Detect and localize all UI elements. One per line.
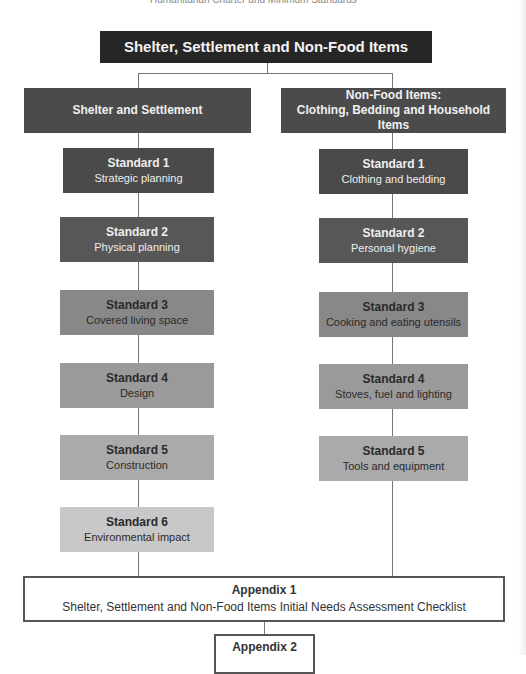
standard-label: Standard 5 bbox=[362, 443, 424, 459]
standard-name: Covered living space bbox=[86, 313, 188, 328]
connector-right-spine bbox=[392, 133, 393, 576]
appendix-1: Appendix 1 Shelter, Settlement and Non-F… bbox=[23, 576, 505, 622]
standard-label: Standard 1 bbox=[107, 155, 169, 171]
connector-appendix bbox=[264, 622, 265, 634]
standard-name: Environmental impact bbox=[84, 530, 190, 545]
standard-label: Standard 2 bbox=[362, 225, 424, 241]
standard-name: Physical planning bbox=[94, 240, 180, 255]
standard-label: Standard 5 bbox=[106, 442, 168, 458]
standard-name: Clothing and bedding bbox=[342, 172, 446, 187]
right-standard-2: Standard 2 Personal hygiene bbox=[319, 218, 468, 263]
category-title: Shelter and Settlement bbox=[72, 103, 202, 118]
appendix-label: Appendix 1 bbox=[232, 582, 297, 598]
right-standard-1: Standard 1 Clothing and bedding bbox=[319, 149, 468, 194]
standard-label: Standard 3 bbox=[362, 299, 424, 315]
right-standard-5: Standard 5 Tools and equipment bbox=[319, 436, 468, 481]
standard-name: Tools and equipment bbox=[343, 459, 445, 474]
connector-right-down bbox=[392, 73, 393, 88]
connector-left-down bbox=[138, 73, 139, 88]
connector-title-down bbox=[267, 63, 268, 73]
connector-horizontal-top bbox=[138, 73, 393, 74]
standard-label: Standard 4 bbox=[106, 370, 168, 386]
category-title-line2: Clothing, Bedding and Household Items bbox=[281, 103, 506, 133]
standard-label: Standard 2 bbox=[106, 224, 168, 240]
appendix-name: Shelter, Settlement and Non-Food Items I… bbox=[62, 598, 466, 616]
page-header: Humanitarian Charter and Minimum Standar… bbox=[150, 0, 357, 5]
standard-name: Strategic planning bbox=[94, 171, 182, 186]
right-standard-4: Standard 4 Stoves, fuel and lighting bbox=[319, 364, 468, 409]
standard-label: Standard 3 bbox=[106, 297, 168, 313]
standard-label: Standard 6 bbox=[106, 514, 168, 530]
category-non-food-items: Non-Food Items: Clothing, Bedding and Ho… bbox=[281, 88, 506, 133]
diagram-title: Shelter, Settlement and Non-Food Items bbox=[100, 31, 432, 63]
right-standard-3: Standard 3 Cooking and eating utensils bbox=[319, 292, 468, 337]
standard-name: Stoves, fuel and lighting bbox=[335, 387, 452, 402]
standard-label: Standard 1 bbox=[362, 156, 424, 172]
left-standard-2: Standard 2 Physical planning bbox=[60, 217, 214, 262]
left-standard-5: Standard 5 Construction bbox=[60, 435, 214, 480]
standard-name: Design bbox=[120, 386, 154, 401]
category-title-line1: Non-Food Items: bbox=[346, 88, 441, 103]
left-standard-6: Standard 6 Environmental impact bbox=[60, 507, 214, 552]
left-standard-3: Standard 3 Covered living space bbox=[60, 290, 214, 335]
page-edge bbox=[518, 0, 526, 655]
standard-name: Cooking and eating utensils bbox=[326, 315, 461, 330]
left-standard-1: Standard 1 Strategic planning bbox=[63, 148, 214, 193]
appendix-label: Appendix 2 bbox=[232, 639, 297, 655]
appendix-2: Appendix 2 bbox=[214, 634, 315, 674]
left-standard-4: Standard 4 Design bbox=[60, 363, 214, 408]
standard-label: Standard 4 bbox=[362, 371, 424, 387]
standard-name: Construction bbox=[106, 458, 168, 473]
diagram-title-text: Shelter, Settlement and Non-Food Items bbox=[124, 39, 408, 55]
standard-name: Personal hygiene bbox=[351, 241, 436, 256]
category-shelter-settlement: Shelter and Settlement bbox=[24, 88, 251, 133]
